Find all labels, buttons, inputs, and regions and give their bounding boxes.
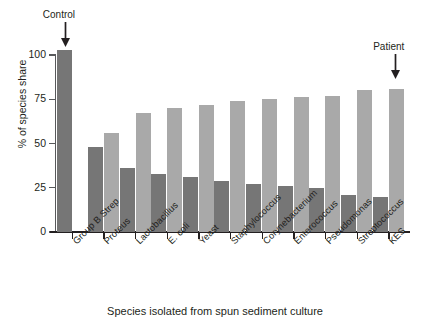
chart-annotation-label: Patient — [373, 41, 404, 52]
bar-dark — [214, 181, 229, 232]
y-tick-label: 50 — [6, 138, 46, 149]
bar-light — [199, 105, 214, 232]
annotation-arrow-down-icon — [60, 22, 70, 48]
bar-group — [56, 55, 88, 232]
annotation-arrow-down-icon — [390, 54, 400, 80]
x-axis-title: Species isolated from spun sediment cult… — [0, 305, 430, 317]
y-tick-label: 75 — [6, 93, 46, 104]
chart-annotation-label: Control — [43, 9, 75, 20]
bar-group — [214, 55, 246, 232]
bar-light — [136, 113, 151, 232]
bar-group — [119, 55, 151, 232]
bar-dark — [57, 50, 72, 232]
y-tick-label: 100 — [6, 49, 46, 60]
y-tick-label: 0 — [6, 226, 46, 237]
bar-chart-figure: % of species share 0255075100 Group B St… — [0, 0, 430, 330]
bar-light — [230, 101, 245, 232]
y-tick-label: 25 — [6, 182, 46, 193]
bar-group — [183, 55, 215, 232]
